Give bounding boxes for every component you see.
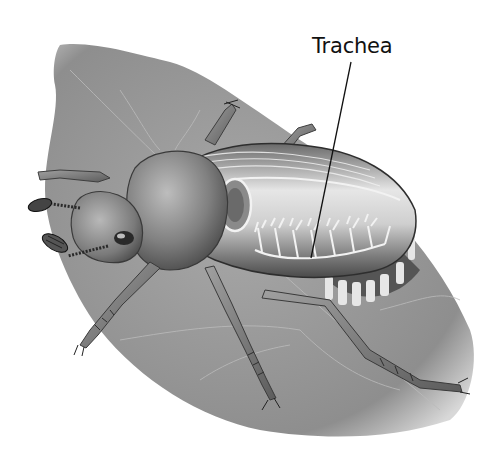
trachea-label: Trachea: [312, 34, 393, 58]
eye: [114, 231, 134, 245]
diagram-canvas: Trachea: [0, 0, 503, 455]
beetle-illustration: [0, 0, 503, 455]
